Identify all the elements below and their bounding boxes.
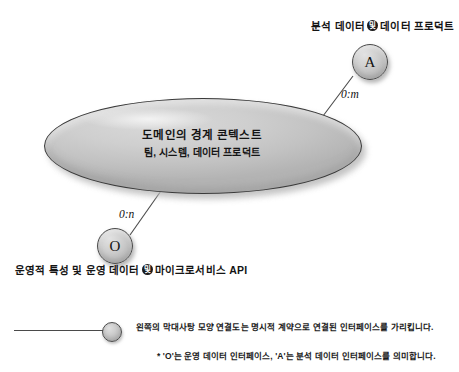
- node-analytical-interface[interactable]: A: [352, 44, 388, 80]
- cardinality-label-operational: 0:n: [119, 208, 134, 220]
- bounded-context-title: 도메인의 경계 콘텍스트: [44, 128, 360, 143]
- legend-note-connector: 왼쪽의 막대사탕 모양 연결도는 명시적 계약으로 연결된 인터페이스를 가리킵…: [136, 320, 434, 332]
- ellipse-text-block: 도메인의 경계 콘텍스트 팀, 시스템, 데이터 프로덕트: [44, 128, 360, 160]
- annotation-operational: 운영적 특성 및 운영 데이터및마이크로서비스 API: [15, 262, 247, 277]
- diagram-canvas: 도메인의 경계 콘텍스트 팀, 시스템, 데이터 프로덕트 A 0:m 분석 데…: [0, 0, 459, 372]
- annotation-analytical-suffix: 데이터 프로덕트: [380, 20, 455, 32]
- annotation-analytical-prefix: 분석 데이터: [311, 20, 365, 32]
- legend-dot: [102, 322, 122, 342]
- badge-and-icon: 및: [367, 20, 378, 31]
- annotation-operational-suffix: 마이크로서비스 API: [155, 264, 248, 276]
- annotation-analytical: 분석 데이터및데이터 프로덕트: [311, 18, 455, 33]
- node-operational-symbol: O: [110, 238, 121, 255]
- legend-line: [14, 330, 104, 331]
- bounded-context-subtitle: 팀, 시스템, 데이터 프로덕트: [44, 145, 360, 160]
- ellipse-gloss: [83, 108, 213, 130]
- node-analytical-symbol: A: [365, 54, 376, 71]
- node-operational-interface[interactable]: O: [97, 228, 133, 264]
- legend-note-symbols: * 'O'는 운영 데이터 인터페이스, 'A'는 분석 데이터 인터페이스를 …: [157, 349, 436, 361]
- badge-and-icon: 및: [142, 264, 153, 275]
- bounded-context-ellipse: 도메인의 경계 콘텍스트 팀, 시스템, 데이터 프로덕트: [44, 98, 366, 198]
- annotation-operational-prefix: 운영적 특성 및 운영 데이터: [15, 264, 140, 276]
- cardinality-label-analytical: 0:m: [341, 88, 359, 100]
